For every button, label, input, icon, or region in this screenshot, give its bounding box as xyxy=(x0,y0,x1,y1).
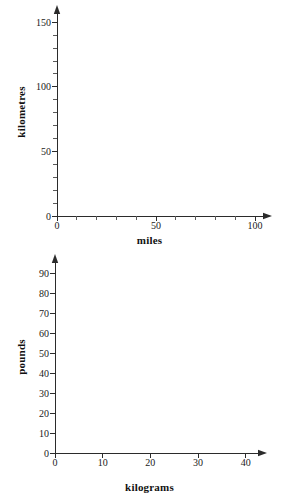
y-axis-title-pounds: pounds xyxy=(14,339,26,374)
y-axis-tick-label: 0 xyxy=(46,211,51,222)
y-axis-tick-label: 0 xyxy=(44,448,49,459)
y-axis-arrow-icon xyxy=(54,5,60,14)
chart-bottom-plot-area: 0102030400102030405060708090 xyxy=(0,252,299,504)
x-axis-tick-label: 10 xyxy=(98,457,108,468)
chart-miles-to-kilometres: 050100050100150 miles kilometres xyxy=(0,0,299,252)
y-axis-tick-label: 10 xyxy=(39,428,49,439)
y-axis-arrow-icon xyxy=(52,254,58,263)
y-axis-tick-label: 90 xyxy=(39,268,49,279)
x-axis-tick-label: 0 xyxy=(53,457,58,468)
x-axis-title-kilograms: kilograms xyxy=(0,481,299,493)
y-axis-tick-label: 50 xyxy=(41,146,51,157)
y-axis-tick-label: 20 xyxy=(39,408,49,419)
y-axis-tick-label: 60 xyxy=(39,328,49,339)
x-axis-tick-label: 20 xyxy=(145,457,155,468)
y-axis-tick-label: 50 xyxy=(39,348,49,359)
x-axis-arrow-icon xyxy=(258,450,267,456)
y-axis-tick-label: 150 xyxy=(36,17,51,28)
y-axis-title-kilometres: kilometres xyxy=(14,86,26,137)
x-axis-tick-label: 30 xyxy=(193,457,203,468)
x-axis-tick-label: 50 xyxy=(151,220,161,231)
chart-kilograms-to-pounds: 0102030400102030405060708090 kilograms p… xyxy=(0,252,299,504)
x-axis-arrow-icon xyxy=(263,213,272,219)
y-axis-tick-label: 100 xyxy=(36,81,51,92)
y-axis-tick-label: 40 xyxy=(39,368,49,379)
y-axis-tick-label: 30 xyxy=(39,388,49,399)
x-axis-tick-label: 0 xyxy=(55,220,60,231)
x-axis-tick-label: 40 xyxy=(241,457,251,468)
y-axis-tick-label: 80 xyxy=(39,288,49,299)
y-axis-tick-label: 70 xyxy=(39,308,49,319)
worksheet-page: 050100050100150 miles kilometres 0102030… xyxy=(0,0,299,504)
x-axis-title-miles: miles xyxy=(0,234,299,246)
x-axis-tick-label: 100 xyxy=(248,220,263,231)
chart-top-plot-area: 050100050100150 xyxy=(0,0,299,252)
